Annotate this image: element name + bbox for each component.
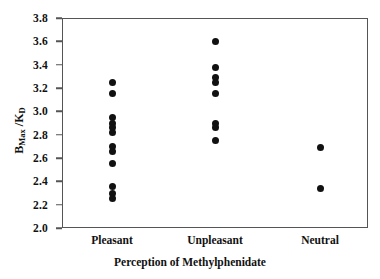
data-point (109, 129, 116, 136)
data-point (212, 124, 219, 131)
y-axis-tick-label: 2.8 (33, 129, 48, 141)
data-point (109, 160, 116, 167)
data-point (212, 79, 219, 86)
y-axis-tick-mark (56, 157, 62, 159)
y-axis-tick-label: 3.4 (33, 59, 48, 71)
y-axis-tick-label: 2.2 (33, 199, 48, 211)
y-axis-tick-label: 3.6 (33, 35, 48, 47)
x-axis-category-label: Pleasant (91, 234, 133, 246)
y-axis-title: BMax /KD (12, 76, 27, 186)
data-point (109, 148, 116, 155)
data-point (109, 90, 116, 97)
y-axis: 2.02.22.42.62.83.03.23.43.63.8 (0, 0, 62, 279)
x-axis-category-label: Unpleasant (187, 234, 243, 246)
y-axis-tick-label: 3.8 (33, 12, 48, 24)
y-axis-title-sub-d: D (17, 107, 27, 113)
y-axis-tick-mark (56, 41, 62, 43)
y-axis-tick-mark (56, 87, 62, 89)
data-point (212, 64, 219, 71)
y-axis-tick-mark (56, 227, 62, 229)
data-point (212, 137, 219, 144)
y-axis-tick-mark (56, 17, 62, 19)
y-axis-tick-mark (56, 181, 62, 183)
x-axis-title: Perception of Methylphenidate (0, 256, 380, 268)
data-point (317, 144, 324, 151)
y-axis-tick-label: 3.2 (33, 82, 48, 94)
data-point (317, 185, 324, 192)
y-axis-title-sub-max: Max (17, 129, 27, 146)
y-axis-tick-mark (56, 134, 62, 136)
y-axis-title-base: B (12, 146, 26, 154)
y-axis-tick-label: 2.4 (33, 175, 48, 187)
data-point (109, 195, 116, 202)
y-axis-tick-mark (56, 64, 62, 66)
x-axis-category-label: Neutral (301, 234, 339, 246)
chart-page: 2.02.22.42.62.83.03.23.43.63.8 BMax /KD … (0, 0, 380, 279)
y-axis-tick-mark (56, 204, 62, 206)
y-axis-tick-label: 2.6 (33, 152, 48, 164)
data-point (212, 38, 219, 45)
y-axis-tick-mark (56, 111, 62, 113)
data-point (109, 79, 116, 86)
y-axis-tick-label: 2.0 (33, 222, 48, 234)
y-axis-title-sep: /K (12, 113, 26, 129)
y-axis-tick-label: 3.0 (33, 105, 48, 117)
data-point (109, 183, 116, 190)
data-point (212, 90, 219, 97)
